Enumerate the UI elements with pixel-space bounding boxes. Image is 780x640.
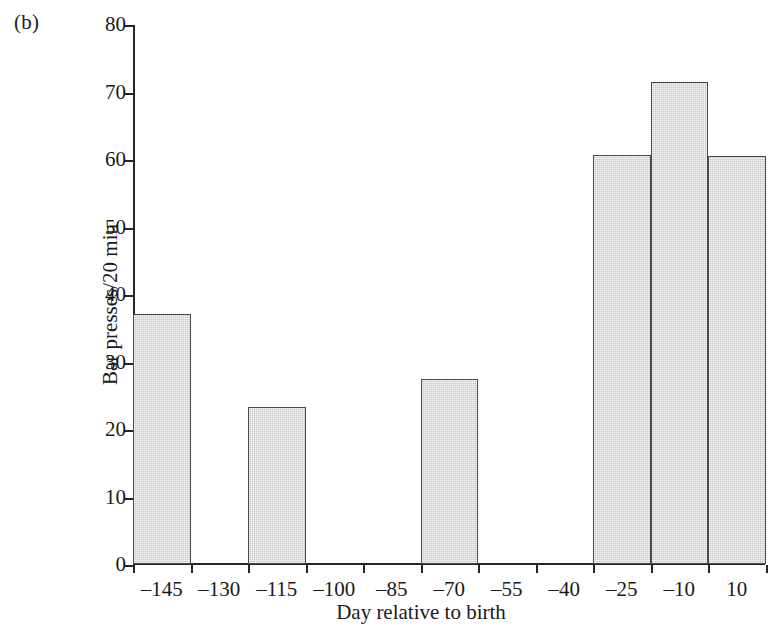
figure-panel-b: (b) Bar presses/20 min 80706050403020100… — [0, 0, 780, 640]
x-tick-mark — [306, 565, 308, 573]
x-tick-mark — [478, 565, 480, 573]
y-tick-label: 40 — [82, 282, 126, 307]
x-tick-mark — [708, 565, 710, 573]
x-tick-label: 10 — [726, 577, 747, 602]
x-tick-label: –40 — [549, 577, 581, 602]
panel-label: (b) — [14, 12, 39, 33]
bar — [651, 82, 709, 564]
x-tick-label: –145 — [141, 577, 183, 602]
x-tick-label: –115 — [256, 577, 297, 602]
x-tick-mark — [651, 565, 653, 573]
x-tick-label: –100 — [313, 577, 355, 602]
bar — [421, 379, 479, 564]
y-tick-label: 10 — [82, 485, 126, 510]
x-tick-mark — [248, 565, 250, 573]
bar — [593, 155, 651, 564]
x-tick-label: –85 — [376, 577, 408, 602]
x-tick-label: –25 — [606, 577, 638, 602]
bar — [133, 314, 191, 564]
x-tick-label: –10 — [664, 577, 696, 602]
y-tick-label: 80 — [82, 12, 126, 37]
bar — [708, 156, 766, 564]
plot-area: 80706050403020100 –145–130–115–100–85–70… — [133, 25, 765, 565]
x-axis-title: Day relative to birth — [133, 600, 709, 625]
y-tick-label: 70 — [82, 80, 126, 105]
x-tick-label: –130 — [198, 577, 240, 602]
x-tick-mark — [421, 565, 423, 573]
x-tick-mark — [536, 565, 538, 573]
y-tick-label: 0 — [82, 552, 126, 577]
y-tick-label: 30 — [82, 350, 126, 375]
y-tick-label: 60 — [82, 147, 126, 172]
y-tick-label: 20 — [82, 417, 126, 442]
x-tick-mark — [133, 565, 135, 573]
x-tick-label: –70 — [434, 577, 466, 602]
x-tick-label: –55 — [491, 577, 523, 602]
bar — [248, 407, 306, 564]
x-tick-mark — [593, 565, 595, 573]
x-tick-mark — [363, 565, 365, 573]
y-tick-label: 50 — [82, 215, 126, 240]
x-tick-mark — [766, 565, 768, 573]
x-tick-mark — [191, 565, 193, 573]
